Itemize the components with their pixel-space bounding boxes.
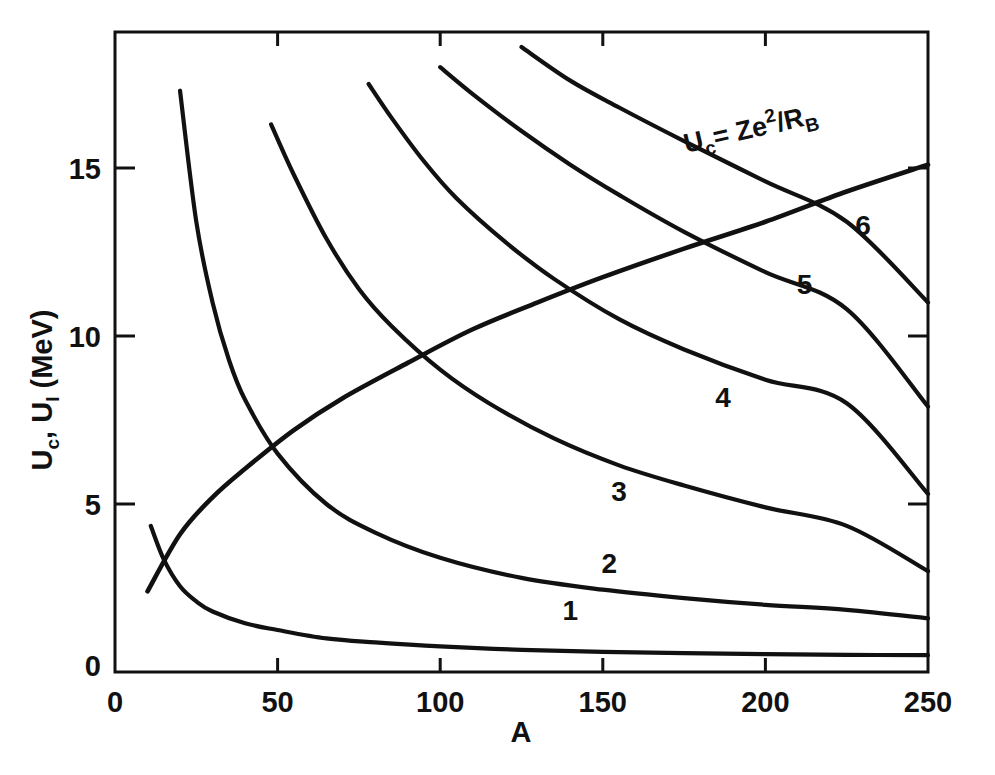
ylabel-uc-sub: c — [42, 438, 63, 449]
x-tick-label: 200 — [741, 686, 789, 718]
x-tick-label: 0 — [107, 686, 123, 718]
y-axis-ticks — [115, 168, 928, 504]
curve-1 — [151, 526, 928, 655]
annotation-div: /R — [774, 102, 807, 137]
annotation-rb-sub: B — [803, 113, 821, 137]
curve-label-4: 4 — [715, 382, 731, 413]
curve-4 — [369, 84, 928, 494]
curve-3 — [271, 124, 928, 571]
ylabel-ul: U — [26, 402, 58, 423]
y-axis-title: Uc, Ul (MeV) — [26, 310, 63, 471]
x-axis-title-text: A — [511, 716, 532, 748]
annotation-eq: = Ze — [710, 111, 770, 153]
x-tick-label: 250 — [904, 686, 952, 718]
ylabel-units: (MeV) — [26, 310, 58, 397]
x-tick-label: 150 — [579, 686, 627, 718]
svg-text:Uc= Ze2/RB: Uc= Ze2/RB — [680, 95, 821, 164]
curve-label-2: 2 — [602, 548, 618, 579]
y-tick-label: 10 — [69, 321, 101, 353]
chart-svg: 050100150200250 051015 123456 A Uc, Ul (… — [0, 0, 995, 775]
coulomb-barrier-formula: Uc= Ze2/RB — [680, 95, 821, 164]
curve-label-3: 3 — [611, 476, 627, 507]
x-axis-tick-labels: 050100150200250 — [107, 686, 952, 718]
curve-label-6: 6 — [855, 210, 871, 241]
curve-labels: 123456 — [562, 210, 870, 626]
ylabel-sep: , — [26, 423, 58, 439]
y-tick-label: 5 — [85, 489, 101, 521]
y-tick-label: 0 — [85, 650, 101, 682]
ylabel-uc: U — [26, 449, 58, 470]
y-axis-tick-labels: 051015 — [69, 153, 101, 682]
curve-Uc — [148, 165, 928, 592]
curve-label-1: 1 — [562, 595, 578, 626]
y-tick-label: 15 — [69, 153, 101, 185]
data-curves — [148, 47, 928, 655]
svg-text:Uc, Ul (MeV): Uc, Ul (MeV) — [26, 310, 63, 471]
figure-container: 050100150200250 051015 123456 A Uc, Ul (… — [0, 0, 995, 775]
x-axis-title: A — [511, 716, 532, 748]
x-tick-label: 100 — [416, 686, 464, 718]
curve-label-5: 5 — [797, 269, 813, 300]
x-tick-label: 50 — [261, 686, 293, 718]
